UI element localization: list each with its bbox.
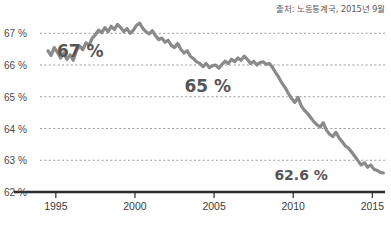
annot-626: 62.6 %: [274, 167, 327, 183]
x-axis-tick-label: 2000: [123, 200, 146, 212]
x-axis-tick-label: 2005: [202, 200, 225, 212]
chart-root: 출처: 노동통계국, 2015년 9월 62 %63 %64 %65 %66 %…: [0, 0, 391, 232]
y-axis-tick-label: 66 %: [4, 60, 27, 71]
line-chart-svg: [0, 0, 391, 232]
y-axis-tick-label: 67 %: [4, 28, 27, 39]
x-axis-tick-label: 2015: [361, 200, 384, 212]
x-axis-tick-label: 1995: [44, 200, 67, 212]
annot-65: 65 %: [184, 76, 231, 96]
y-axis-tick-label: 62 %: [4, 187, 27, 198]
x-axis-tick-label: 2010: [282, 200, 305, 212]
plot-area: 62 %63 %64 %65 %66 %67 % 199520002005201…: [0, 0, 391, 232]
annot-67: 67 %: [57, 41, 104, 61]
y-axis-tick-label: 65 %: [4, 91, 27, 102]
y-axis-tick-label: 64 %: [4, 123, 27, 134]
y-axis-tick-label: 63 %: [4, 155, 27, 166]
